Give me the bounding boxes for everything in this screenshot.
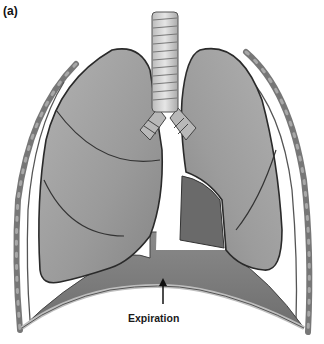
- lung-illustration: [0, 0, 324, 344]
- expiration-label: Expiration: [128, 312, 179, 324]
- panel-label: (a): [3, 4, 18, 18]
- trachea: [152, 12, 178, 112]
